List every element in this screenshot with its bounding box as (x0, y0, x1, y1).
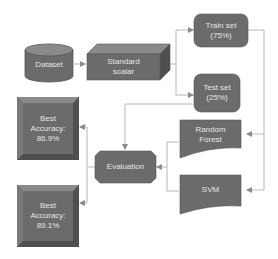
train-set-label: Train set (75%) (194, 14, 248, 47)
edge-scalar-test (176, 64, 193, 95)
standard-scalar-label: Standard scalar (87, 54, 160, 80)
edge-models-bus (167, 142, 179, 191)
random-forest-label: Random Forest (180, 122, 241, 148)
edge-scalar-train (170, 30, 193, 64)
evaluation-label: Evaluation (95, 151, 156, 183)
best-accuracy-2-label: Best Accuracy: 89.1% (23, 191, 73, 241)
best-accuracy-1-label: Best Accuracy: 86.9% (23, 103, 73, 154)
edge-train-svm (247, 30, 264, 190)
dataset-label: Dataset (25, 56, 73, 74)
test-set-label: Test set (25%) (194, 74, 240, 112)
svm-label: SVM (180, 178, 241, 202)
